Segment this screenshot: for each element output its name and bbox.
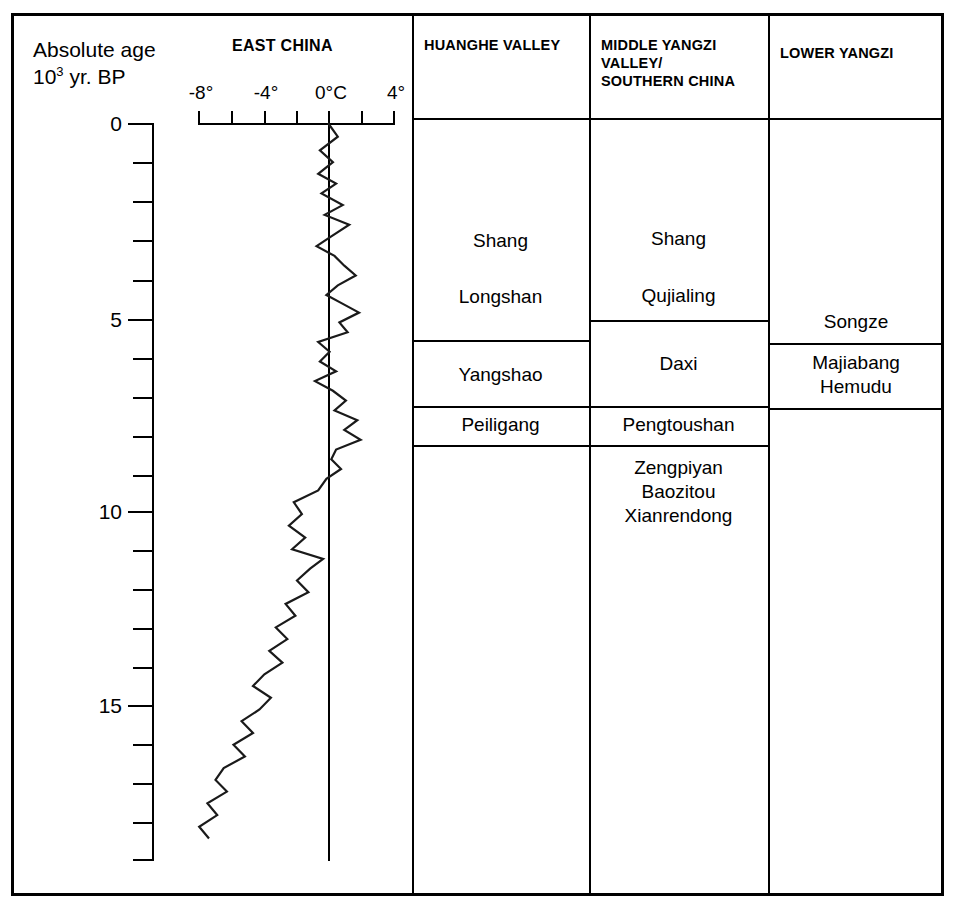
temp-tick--8 <box>198 111 200 124</box>
age-tick-label-15: 15 <box>62 694 122 718</box>
culture-cell-middle-yangzi-shang: Shang <box>589 227 768 251</box>
column-divider-2 <box>589 13 591 896</box>
temp-tick-label--4: -4° <box>254 82 279 104</box>
temp-tick-2 <box>361 111 363 124</box>
panel-title-east-china: EAST CHINA <box>232 36 333 55</box>
column-header-middle-yangzi: MIDDLE YANGZI VALLEY/ SOUTHERN CHINA <box>601 36 735 90</box>
column-divider-1 <box>412 13 414 896</box>
age-tick-1 <box>133 162 154 164</box>
middle-yangzi-divider-qujialing-daxi <box>589 320 768 322</box>
culture-cell-lower-yangzi-songze: Songze <box>768 310 944 334</box>
temp-tick-label-4: 4° <box>387 82 405 104</box>
culture-cell-middle-yangzi-qujialing: Qujialing <box>589 284 768 308</box>
zero-degree-reference-line <box>328 123 330 861</box>
middle-yangzi-divider-pengtoushan-zengpiyan <box>589 445 768 447</box>
age-tick-6 <box>133 358 154 360</box>
culture-cell-lower-yangzi-majiabang-hemudu: Majiabang Hemudu <box>768 351 944 399</box>
age-axis-line <box>152 123 154 861</box>
age-tick-7 <box>133 397 154 399</box>
culture-cell-middle-yangzi-daxi: Daxi <box>589 352 768 376</box>
age-tick-14 <box>133 667 154 669</box>
age-tick-5 <box>128 319 154 321</box>
middle-yangzi-divider-daxi-pengtoushan <box>589 406 768 408</box>
culture-cell-middle-yangzi-pengtoushan: Pengtoushan <box>589 413 768 437</box>
age-tick-0 <box>128 123 154 125</box>
culture-cell-huanghe-peiligang: Peiligang <box>412 413 589 437</box>
age-axis-units-base: 10 <box>33 65 56 88</box>
culture-cell-huanghe-shang: Shang <box>412 229 589 253</box>
age-tick-17 <box>133 783 154 785</box>
temp-tick--2 <box>296 111 298 124</box>
age-tick-label-0: 0 <box>62 112 122 136</box>
temp-tick-label-0: 0°C <box>315 82 347 104</box>
age-tick-label-10: 10 <box>62 500 122 524</box>
age-axis-units-suffix: yr. BP <box>64 65 126 88</box>
age-tick-8 <box>133 436 154 438</box>
age-axis-title-line2: 103 yr. BP <box>33 63 156 90</box>
huanghe-divider-longshan-yangshao <box>412 340 589 342</box>
age-tick-13 <box>133 628 154 630</box>
column-header-rule <box>412 118 944 120</box>
temp-tick--6 <box>231 111 233 124</box>
age-tick-11 <box>133 550 154 552</box>
culture-cell-huanghe-yangshao: Yangshao <box>412 363 589 387</box>
age-axis-units-exponent: 3 <box>56 64 63 79</box>
age-tick-18 <box>133 822 154 824</box>
huanghe-divider-peiligang-bottom <box>412 445 589 447</box>
huanghe-divider-yangshao-peiligang <box>412 406 589 408</box>
lower-yangzi-divider-majiabang-bottom <box>768 408 944 410</box>
column-header-huanghe-valley: HUANGHE VALLEY <box>424 36 560 54</box>
age-tick-2 <box>133 201 154 203</box>
culture-cell-huanghe-longshan: Longshan <box>412 285 589 309</box>
age-tick-label-5: 5 <box>62 308 122 332</box>
column-divider-3 <box>768 13 770 896</box>
figure-outer-frame <box>11 13 944 896</box>
temp-tick-label--8: -8° <box>189 82 214 104</box>
age-axis-title-line1: Absolute age <box>33 36 156 63</box>
culture-cell-middle-yangzi-late-paleolithic: Zengpiyan Baozitou Xianrendong <box>589 456 768 528</box>
temp-tick-4 <box>393 111 395 124</box>
age-tick-16 <box>133 744 154 746</box>
age-tick-4 <box>133 280 154 282</box>
temp-tick--4 <box>264 111 266 124</box>
column-header-lower-yangzi: LOWER YANGZI <box>780 44 894 62</box>
paleoclimate-archaeology-chart: Absolute age 103 yr. BP EAST CHINA HUANG… <box>0 0 957 919</box>
age-tick-9 <box>133 475 154 477</box>
age-axis-title: Absolute age 103 yr. BP <box>33 36 156 90</box>
lower-yangzi-divider-songze-majiabang <box>768 343 944 345</box>
age-tick-15 <box>128 705 154 707</box>
age-tick-12 <box>133 589 154 591</box>
age-tick-10 <box>128 511 154 513</box>
age-tick-19 <box>133 859 154 861</box>
age-tick-3 <box>133 240 154 242</box>
